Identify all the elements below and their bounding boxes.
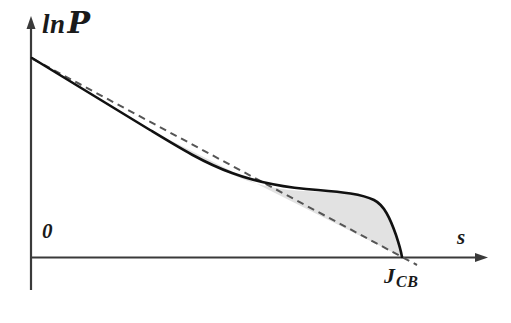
plot-canvas [0,0,511,323]
y-axis-arrow-icon [27,16,36,29]
x-axis-label: s [457,225,465,250]
jcb-base: J [384,263,395,288]
figure-container: lnP s 0 JCB [0,0,511,323]
origin-label: 0 [42,219,53,244]
shaded-region [150,130,402,257]
jcb-subscript: CB [395,273,418,290]
x-tick-label-jcb: JCB [384,263,418,291]
y-axis-label: lnP [42,5,91,40]
y-axis-label-symbol: P [66,5,91,40]
x-axis-arrow-icon [475,253,488,262]
y-axis-label-ln: ln [42,9,66,39]
